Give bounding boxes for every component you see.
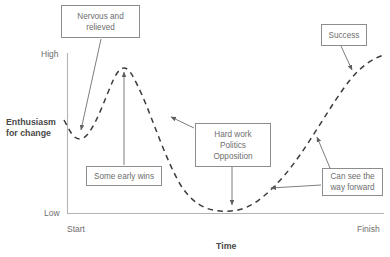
- arrow-nervous: [81, 39, 101, 130]
- callout-line: Opposition: [213, 151, 252, 162]
- y-axis-title: Enthusiasm for change: [6, 117, 66, 139]
- y-axis-title-line2: for change: [6, 128, 51, 138]
- arrow-way-forward-lower: [271, 185, 321, 188]
- callout-line: Success: [329, 30, 360, 41]
- callout-line: Some early wins: [94, 171, 154, 182]
- callout-line: way forward: [330, 182, 374, 193]
- callout-nervous-and-relieved[interactable]: Nervous and relieved: [61, 5, 140, 38]
- callout-success[interactable]: Success: [321, 24, 367, 46]
- callout-line: Hard work: [214, 129, 251, 140]
- y-axis-high-label: High: [41, 49, 58, 59]
- arrow-way-forward-upper: [317, 137, 330, 168]
- callout-line: Nervous and: [77, 11, 123, 22]
- arrow-success: [341, 46, 352, 70]
- callout-line: Can see the: [330, 171, 374, 182]
- callout-can-see-the-way-forward[interactable]: Can see the way forward: [322, 168, 383, 196]
- arrow-hard-work-upper: [171, 117, 194, 128]
- x-axis-finish-label: Finish: [357, 224, 380, 234]
- callout-some-early-wins[interactable]: Some early wins: [86, 166, 162, 186]
- x-axis-title: Time: [216, 241, 236, 251]
- x-axis-start-label: Start: [67, 224, 85, 234]
- change-curve-diagram: High Low Start Finish Enthusiasm for cha…: [0, 0, 390, 257]
- callout-hard-work-politics-opposition[interactable]: Hard work Politics Opposition: [195, 123, 271, 167]
- y-axis-low-label: Low: [44, 208, 60, 218]
- callout-line: relieved: [86, 22, 115, 33]
- callout-line: Politics: [220, 140, 246, 151]
- y-axis-title-line1: Enthusiasm: [6, 117, 56, 127]
